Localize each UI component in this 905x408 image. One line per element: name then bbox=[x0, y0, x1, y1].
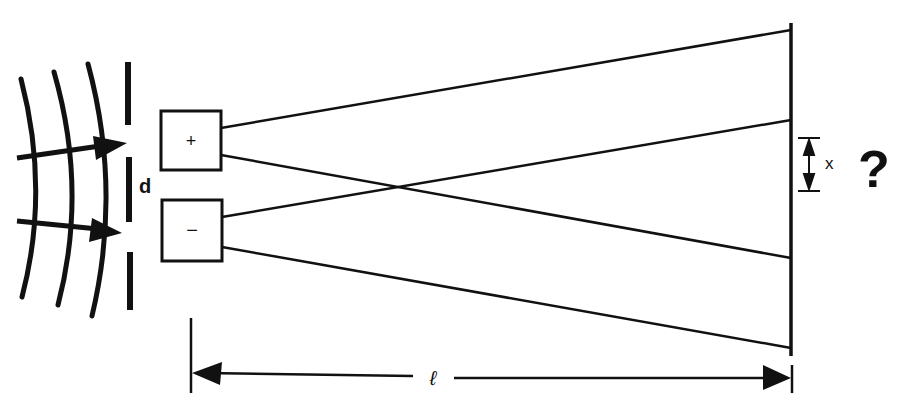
arrow-up-icon bbox=[804, 140, 814, 155]
arrow-down-icon bbox=[804, 174, 814, 189]
source-box-minus: − bbox=[162, 200, 222, 261]
fringe-spacing-label: x bbox=[825, 154, 834, 173]
wavefronts bbox=[21, 64, 106, 316]
minus-sign: − bbox=[186, 219, 198, 241]
slit-separation-label: d bbox=[139, 175, 151, 197]
incident-arrow-top bbox=[17, 146, 100, 158]
arrowhead-top-icon bbox=[93, 136, 127, 160]
fringe-spacing-dimension bbox=[798, 138, 820, 191]
ray-minus-bottom bbox=[222, 247, 791, 348]
slit-barrier bbox=[128, 62, 130, 310]
distance-label: ℓ bbox=[429, 367, 438, 389]
arrow-right-icon bbox=[763, 365, 791, 390]
diagram-canvas: d + − x ? ℓ bbox=[0, 0, 905, 408]
ray-plus-bottom bbox=[221, 155, 791, 258]
wavefront-2 bbox=[54, 72, 72, 305]
ray-minus-top bbox=[222, 120, 791, 217]
distance-dimension bbox=[191, 318, 792, 393]
arrow-left-icon bbox=[192, 362, 222, 385]
incident-arrow-bottom bbox=[17, 221, 98, 229]
ray-plus-top bbox=[221, 30, 791, 128]
question-mark: ? bbox=[858, 140, 890, 198]
wavefront-3 bbox=[88, 64, 106, 316]
rays bbox=[221, 30, 791, 348]
plus-sign: + bbox=[186, 131, 197, 151]
wavefront-1 bbox=[21, 79, 36, 297]
source-box-plus: + bbox=[161, 111, 221, 170]
